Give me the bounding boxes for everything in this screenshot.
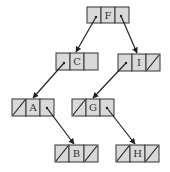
pointer-dot <box>120 15 122 17</box>
node-label: B <box>73 148 80 159</box>
node-label: A <box>28 102 37 113</box>
edge-a-to-b <box>47 108 74 144</box>
pointer-dot <box>63 62 65 64</box>
tree-diagram: F C I A G B <box>0 0 170 172</box>
pointer-dot <box>95 16 97 18</box>
left-pointer-cell <box>56 53 70 70</box>
node-label: F <box>105 10 112 21</box>
node-label: I <box>137 57 141 68</box>
tree-node-c: C <box>56 53 98 70</box>
tree-node-i: I <box>118 54 160 71</box>
edge-f-to-c <box>76 17 96 52</box>
edge-c-to-a <box>33 63 64 98</box>
node-label: G <box>89 102 97 113</box>
right-pointer-cell <box>84 53 98 70</box>
tree-node-h: H <box>116 145 159 162</box>
edge-g-to-h <box>107 108 135 144</box>
tree-node-b: B <box>55 145 98 162</box>
pointer-dot <box>125 62 127 64</box>
node-label: C <box>73 56 81 67</box>
pointer-dot <box>46 107 48 109</box>
node-label: H <box>133 148 142 159</box>
pointer-dot <box>106 107 108 109</box>
right-pointer-cell <box>115 7 129 23</box>
